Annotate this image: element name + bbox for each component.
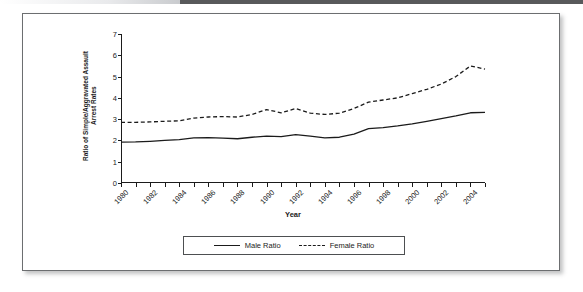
x-tick-mark xyxy=(194,183,195,187)
x-tick-mark xyxy=(412,183,413,187)
x-tick-mark xyxy=(456,183,457,187)
x-tick-mark xyxy=(485,183,486,187)
x-tick-mark xyxy=(310,183,311,187)
legend-label-female: Female Ratio xyxy=(330,241,375,250)
x-tick-mark xyxy=(325,183,326,187)
y-tick-label: 3 xyxy=(105,115,117,124)
figure-panel: Ratio of Simple/Aggravated Assault Arres… xyxy=(22,13,560,271)
y-tick-label: 6 xyxy=(105,51,117,60)
series-line-male-ratio xyxy=(121,112,485,142)
y-tick-label: 5 xyxy=(105,72,117,81)
x-tick-mark xyxy=(165,183,166,187)
y-tick-label: 4 xyxy=(105,93,117,102)
x-tick-mark xyxy=(179,183,180,187)
x-tick-label: 1980 xyxy=(112,188,130,206)
x-tick-mark xyxy=(150,183,151,187)
legend-entry-female: Female Ratio xyxy=(299,241,375,250)
legend-entry-male: Male Ratio xyxy=(214,241,281,250)
y-axis-title: Ratio of Simple/Aggravated Assault Arres… xyxy=(81,26,99,186)
x-tick-mark xyxy=(208,183,209,187)
x-tick-mark xyxy=(354,183,355,187)
x-tick-mark xyxy=(223,183,224,187)
y-tick-label: 7 xyxy=(105,30,117,39)
x-tick-mark xyxy=(252,183,253,187)
series-line-female-ratio xyxy=(121,66,485,122)
plot-wrapper: Ratio of Simple/Aggravated Assault Arres… xyxy=(23,14,561,272)
x-tick-label: 1988 xyxy=(229,188,247,206)
x-tick-label: 1984 xyxy=(170,188,188,206)
x-tick-label: 1994 xyxy=(316,188,334,206)
x-tick-mark xyxy=(296,183,297,187)
y-tick-label: 1 xyxy=(105,157,117,166)
x-tick-mark xyxy=(121,183,122,187)
y-tick-label: 0 xyxy=(105,179,117,188)
x-tick-label: 1998 xyxy=(374,188,392,206)
x-tick-mark xyxy=(398,183,399,187)
x-tick-label: 1992 xyxy=(287,188,305,206)
plot-area: 01234567 1980198219841986198819901992199… xyxy=(121,34,485,183)
x-tick-mark xyxy=(427,183,428,187)
x-tick-label: 2004 xyxy=(462,188,480,206)
x-tick-mark xyxy=(470,183,471,187)
x-tick-label: 1990 xyxy=(258,188,276,206)
legend-swatch-female-dashed-line xyxy=(299,245,325,246)
x-tick-mark xyxy=(267,183,268,187)
y-tick-label: 2 xyxy=(105,136,117,145)
x-tick-mark xyxy=(281,183,282,187)
x-tick-mark xyxy=(237,183,238,187)
series-lines xyxy=(121,34,485,183)
legend-swatch-male-solid-line xyxy=(214,245,240,246)
x-tick-label: 2000 xyxy=(403,188,421,206)
x-tick-label: 1982 xyxy=(141,188,159,206)
top-strip-fade xyxy=(0,0,180,4)
top-cropped-toolbar-strip xyxy=(180,0,583,4)
legend-label-male: Male Ratio xyxy=(245,241,281,250)
legend: Male Ratio Female Ratio xyxy=(183,236,405,255)
x-tick-mark xyxy=(441,183,442,187)
x-tick-label: 1986 xyxy=(200,188,218,206)
x-tick-label: 2002 xyxy=(433,188,451,206)
x-axis-title: Year xyxy=(253,210,333,219)
x-tick-label: 1996 xyxy=(345,188,363,206)
x-tick-mark xyxy=(339,183,340,187)
x-tick-mark xyxy=(383,183,384,187)
x-tick-mark xyxy=(136,183,137,187)
x-tick-mark xyxy=(369,183,370,187)
